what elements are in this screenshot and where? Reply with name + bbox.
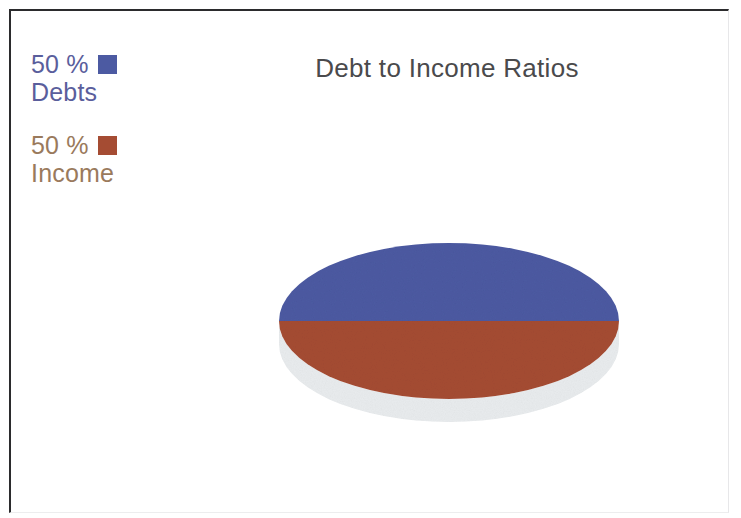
color-swatch-icon-income [98, 136, 117, 155]
legend-row-income: 50 % [31, 132, 191, 159]
pie-chart-svg [269, 216, 649, 426]
legend-percent-income: 50 % [31, 132, 89, 159]
legend-item-income: 50 % Income [31, 132, 191, 187]
chart-legend: 50 % Debts 50 % Income [31, 51, 191, 213]
pie-chart [269, 216, 649, 426]
chart-frame-border: 50 % Debts 50 % Income Debt to Income Ra… [9, 9, 729, 513]
legend-row-debts: 50 % [31, 51, 191, 78]
pie-slice-debts[interactable] [279, 243, 619, 321]
legend-label-debts: Debts [31, 78, 191, 106]
legend-percent-debts: 50 % [31, 51, 89, 78]
chart-title: Debt to Income Ratios [207, 53, 687, 83]
color-swatch-icon-debts [98, 55, 117, 74]
scanned-page: 50 % Debts 50 % Income Debt to Income Ra… [0, 0, 741, 518]
legend-item-debts: 50 % Debts [31, 51, 191, 106]
legend-label-income: Income [31, 159, 191, 187]
